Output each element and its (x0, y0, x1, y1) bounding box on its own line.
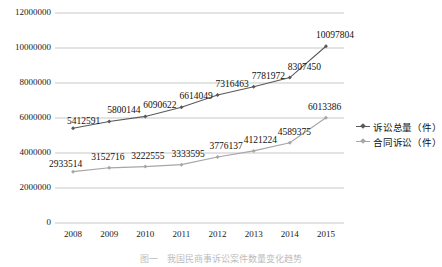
data-point-label: 8307450 (288, 62, 321, 72)
data-point-label: 6013386 (308, 102, 341, 112)
chart-figure: 1200000010000000800000060000004000000200… (0, 0, 442, 267)
chart-legend: 诉讼总量（件）合同诉讼（件） (356, 119, 442, 149)
y-axis-tick-label: 6000000 (0, 113, 51, 122)
y-axis-tick-label: 10000000 (0, 43, 51, 52)
legend-marker-icon (356, 122, 370, 132)
x-axis-tick-label: 2009 (89, 230, 129, 239)
legend-item-2[interactable]: 合同诉讼（件） (356, 134, 442, 149)
data-point-label: 3776137 (210, 141, 243, 151)
legend-item-label: 诉讼总量（件） (373, 120, 442, 134)
x-axis-tick-label: 2012 (198, 230, 238, 239)
data-point-marker (71, 170, 75, 174)
x-axis-tick-label: 2013 (234, 230, 274, 239)
data-point-label: 4121224 (244, 135, 277, 145)
data-point-label: 5412591 (67, 116, 100, 126)
figure-caption: 图一 我国民商事诉讼案件数量变化趋势 (0, 252, 442, 267)
data-point-label: 7316463 (216, 79, 249, 89)
legend-item-1[interactable]: 诉讼总量（件） (356, 119, 442, 134)
data-point-marker (143, 165, 147, 169)
data-point-marker (179, 163, 183, 167)
y-axis-tick-label: 0 (0, 218, 51, 227)
x-axis-tick-label: 2011 (161, 230, 201, 239)
series-line-1 (73, 46, 326, 128)
data-point-label: 6090622 (143, 100, 176, 110)
x-axis-tick-label: 2015 (306, 230, 346, 239)
x-axis-tick-label: 2008 (53, 230, 93, 239)
data-point-marker (107, 166, 111, 170)
data-point-label: 7781972 (252, 71, 285, 81)
y-axis-tick-label: 4000000 (0, 148, 51, 157)
data-point-label: 2933514 (49, 159, 82, 169)
data-point-label: 6614049 (179, 91, 212, 101)
x-axis-tick-label: 2010 (125, 230, 165, 239)
data-point-label: 5800144 (107, 105, 140, 115)
data-point-label: 4589375 (278, 127, 311, 137)
data-point-marker (107, 119, 111, 123)
y-axis-tick-label: 2000000 (0, 183, 51, 192)
y-axis-tick-label: 12000000 (0, 8, 51, 17)
data-point-marker (71, 126, 75, 130)
data-point-marker (252, 149, 256, 153)
legend-item-label: 合同诉讼（件） (373, 135, 442, 149)
data-point-label: 10097804 (316, 30, 354, 40)
x-axis-tick-label: 2014 (270, 230, 310, 239)
data-point-label: 3222555 (131, 151, 164, 161)
data-point-marker (216, 93, 220, 97)
data-point-marker (252, 85, 256, 89)
data-point-label: 3333595 (171, 149, 204, 159)
data-point-label: 3152716 (91, 152, 124, 162)
data-point-marker (216, 155, 220, 159)
y-axis-tick-label: 8000000 (0, 78, 51, 87)
legend-marker-icon (356, 137, 370, 147)
data-point-marker (179, 105, 183, 109)
